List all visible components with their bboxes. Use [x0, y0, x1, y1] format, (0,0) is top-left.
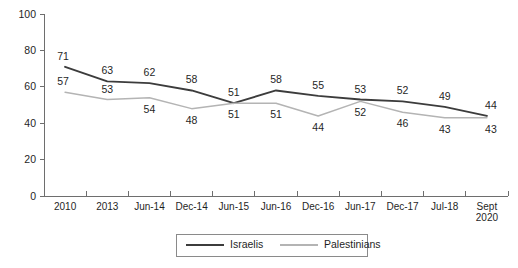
- y-axis-tick-label: 80: [24, 44, 36, 56]
- data-label-israelis: 51: [228, 86, 240, 98]
- x-axis-tick-label: Dec-17: [386, 201, 419, 212]
- y-axis-tick-label: 60: [24, 80, 36, 92]
- data-label-israelis: 62: [144, 66, 156, 78]
- y-axis: 020406080100: [18, 8, 44, 202]
- data-label-palestinians: 51: [228, 108, 240, 120]
- legend-label-palestinians: Palestinians: [324, 238, 381, 250]
- data-label-palestinians: 48: [186, 114, 198, 126]
- data-label-israelis: 58: [270, 73, 282, 85]
- data-label-palestinians: 53: [101, 83, 113, 95]
- data-label-palestinians: 46: [397, 117, 409, 129]
- x-axis-tick-label: 2020: [476, 212, 499, 223]
- x-axis-tick-label: Jun-15: [219, 201, 250, 212]
- data-label-palestinians: 57: [57, 75, 69, 87]
- x-axis-tick-label: Jun-16: [261, 201, 292, 212]
- x-axis-tick-label: Sept: [477, 201, 498, 212]
- data-label-israelis: 55: [312, 79, 324, 91]
- data-point-labels: 7163625851585553524944575354485151445246…: [57, 50, 497, 135]
- x-axis-tick-label: Jun-14: [134, 201, 165, 212]
- y-axis-tick-label: 40: [24, 117, 36, 129]
- data-label-palestinians: 43: [439, 123, 451, 135]
- chart-container: 020406080100 20102013Jun-14Dec-14Jun-15J…: [0, 0, 518, 268]
- data-label-palestinians: 44: [312, 121, 324, 133]
- y-axis-tick-label: 100: [18, 8, 36, 20]
- legend-label-israelis: Israelis: [230, 238, 263, 250]
- data-label-israelis: 52: [397, 84, 409, 96]
- data-label-israelis: 63: [101, 64, 113, 76]
- data-label-israelis: 49: [439, 90, 451, 102]
- line-chart: 020406080100 20102013Jun-14Dec-14Jun-15J…: [0, 0, 518, 268]
- x-axis-tick-label: 2013: [96, 201, 119, 212]
- y-axis-tick-label: 0: [30, 190, 36, 202]
- x-axis-tick-label: Jul-18: [431, 201, 459, 212]
- data-label-palestinians: 43: [485, 123, 497, 135]
- data-label-israelis: 58: [186, 73, 198, 85]
- x-axis: 20102013Jun-14Dec-14Jun-15Jun-16Dec-16Ju…: [44, 191, 508, 223]
- y-axis-tick-label: 20: [24, 153, 36, 165]
- data-label-palestinians: 54: [144, 103, 156, 115]
- x-axis-tick-label: 2010: [54, 201, 77, 212]
- x-axis-tick-label: Jun-17: [345, 201, 376, 212]
- data-label-israelis: 71: [57, 50, 69, 62]
- data-label-palestinians: 51: [270, 108, 282, 120]
- x-axis-tick-label: Dec-14: [176, 201, 209, 212]
- data-label-israelis: 53: [355, 83, 367, 95]
- x-axis-tick-label: Dec-16: [302, 201, 335, 212]
- data-label-palestinians: 52: [355, 106, 367, 118]
- data-label-israelis: 44: [485, 99, 497, 111]
- chart-legend: IsraelisPalestinians: [176, 234, 381, 256]
